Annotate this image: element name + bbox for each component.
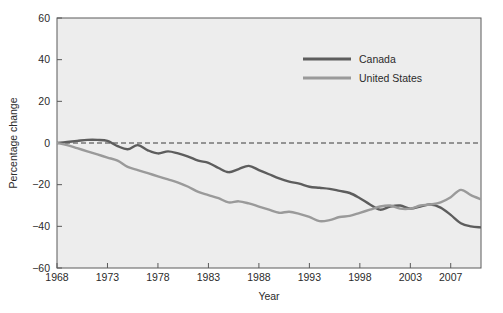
y-tick-label: 40 (38, 53, 50, 65)
x-tick-label: 1993 (298, 271, 322, 283)
x-axis-title: Year (258, 290, 280, 302)
x-tick-label: 2007 (439, 271, 463, 283)
y-tick-label: 60 (38, 12, 50, 24)
y-tick-label: −40 (32, 220, 50, 232)
y-tick-label: 20 (38, 95, 50, 107)
legend-label-canada: Canada (359, 53, 396, 65)
x-tick-label: 1998 (348, 271, 372, 283)
y-tick-label: 0 (44, 137, 50, 149)
x-tick-label: 1988 (247, 271, 271, 283)
x-tick-label: 1968 (45, 271, 69, 283)
y-axis-title: Percentage change (7, 97, 19, 188)
line-chart: 6040200−20−40−60 19681973197819831988199… (0, 0, 503, 313)
x-tick-label: 1983 (197, 271, 221, 283)
chart-figure: 6040200−20−40−60 19681973197819831988199… (0, 0, 503, 313)
y-tick-label: −20 (32, 178, 50, 190)
x-tick-label: 2003 (399, 271, 423, 283)
x-tick-label: 1978 (146, 271, 170, 283)
x-tick-label: 1973 (96, 271, 120, 283)
legend-label-united-states: United States (359, 72, 422, 84)
